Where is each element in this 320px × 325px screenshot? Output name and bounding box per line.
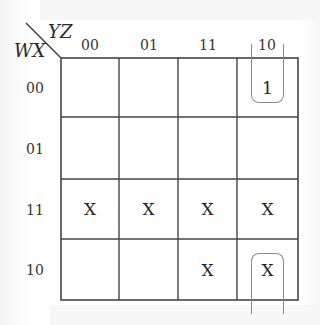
cell-r2-c3: X: [237, 179, 298, 239]
cell-r2-c0: X: [61, 179, 119, 239]
row-label-11: 11: [20, 203, 50, 217]
cell-r0-c0: [61, 58, 119, 117]
row-label-10: 10: [20, 263, 50, 277]
row-variable-label: WX: [14, 42, 45, 60]
cell-r2-c1: X: [119, 179, 178, 239]
col-label-11: 11: [179, 38, 237, 52]
col-label-01: 01: [120, 38, 178, 52]
grouping-loop-bottom: [251, 253, 284, 314]
cell-r3-c0: [61, 239, 119, 300]
cell-r1-c0: [61, 117, 119, 179]
cell-r1-c2: [178, 117, 237, 179]
row-label-00: 00: [20, 81, 50, 95]
cell-r1-c3: [237, 117, 298, 179]
cell-r0-c2: [178, 58, 237, 117]
col-label-00: 00: [61, 38, 119, 52]
grouping-loop-top: [251, 44, 284, 103]
cell-r1-c1: [119, 117, 178, 179]
cell-r3-c2: X: [178, 239, 237, 300]
row-label-01: 01: [20, 142, 50, 156]
cell-r3-c1: [119, 239, 178, 300]
cell-r0-c1: [119, 58, 178, 117]
cell-r2-c2: X: [178, 179, 237, 239]
